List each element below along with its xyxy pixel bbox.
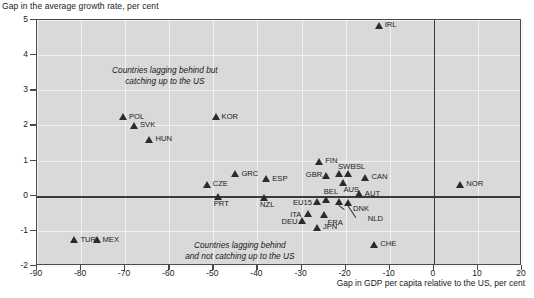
data-point-label: ISL	[354, 163, 365, 171]
triangle-marker-icon	[70, 236, 78, 243]
data-point-label: DEU	[282, 218, 298, 226]
y-tick-mark	[30, 54, 36, 55]
gridline-vertical	[390, 20, 391, 264]
gridline-vertical	[478, 20, 479, 264]
data-point-label: IRL	[385, 21, 397, 29]
x-tick-label: 10	[457, 268, 497, 278]
zero-horizontal-line	[37, 196, 520, 198]
triangle-marker-icon	[344, 170, 352, 177]
triangle-marker-icon	[322, 196, 330, 203]
triangle-marker-icon	[231, 170, 239, 177]
chart-plot-area: Countries lagging behind butcatching up …	[36, 19, 521, 265]
annotation-catching-up: Countries lagging behind butcatching up …	[85, 65, 245, 87]
x-tick-label: -80	[60, 268, 100, 278]
triangle-marker-icon	[212, 113, 220, 120]
data-point-label: GBR	[306, 171, 322, 179]
y-tick-label: 1	[2, 155, 28, 165]
gridline-horizontal	[37, 125, 520, 126]
x-tick-label: -60	[148, 268, 188, 278]
x-tick-label: -30	[281, 268, 321, 278]
y-tick-label: 4	[2, 49, 28, 59]
gridline-horizontal	[37, 20, 520, 21]
y-tick-mark	[30, 265, 36, 266]
triangle-marker-icon	[203, 181, 211, 188]
gridline-vertical	[257, 20, 258, 264]
x-tick-label: -10	[369, 268, 409, 278]
triangle-marker-icon	[456, 181, 464, 188]
gridline-horizontal	[37, 231, 520, 232]
data-point-label: NLD	[368, 215, 383, 223]
x-tick-label: -70	[104, 268, 144, 278]
y-tick-mark	[30, 160, 36, 161]
annotation-not-catching-up-line2: and not catching up to the US	[160, 251, 320, 262]
y-tick-label: -1	[2, 225, 28, 235]
y-tick-mark	[30, 89, 36, 90]
triangle-marker-icon	[119, 113, 127, 120]
data-point-label: BEL	[324, 188, 338, 196]
triangle-marker-icon	[313, 198, 321, 205]
triangle-marker-icon	[315, 158, 323, 165]
data-point-label: HUN	[155, 135, 171, 143]
annotation-not-catching-up: Countries lagging behindand not catching…	[160, 240, 320, 262]
gridline-vertical	[522, 20, 523, 264]
y-axis-title: Gap in the average growth rate, per cent	[2, 1, 159, 11]
data-point-label: CHE	[380, 240, 396, 248]
triangle-marker-icon	[322, 172, 330, 179]
data-point-label: NZL	[260, 201, 274, 209]
triangle-marker-icon	[335, 170, 343, 177]
annotation-catching-up-line2: catching up to the US	[85, 76, 245, 87]
x-tick-label: 0	[413, 268, 453, 278]
triangle-marker-icon	[130, 122, 138, 129]
gridline-horizontal	[37, 161, 520, 162]
triangle-marker-icon	[313, 224, 321, 231]
y-tick-label: 2	[2, 119, 28, 129]
triangle-marker-icon	[361, 174, 369, 181]
gridline-vertical	[37, 20, 38, 264]
x-tick-label: -50	[192, 268, 232, 278]
data-point-label: SVK	[140, 121, 155, 129]
x-axis-title: Gap in GDP per capita relative to the US…	[337, 278, 525, 288]
y-tick-mark	[30, 195, 36, 196]
annotation-catching-up-line1: Countries lagging behind but	[85, 65, 245, 76]
triangle-marker-icon	[375, 22, 383, 29]
x-tick-label: -40	[236, 268, 276, 278]
gridline-vertical	[125, 20, 126, 264]
gridline-vertical	[81, 20, 82, 264]
y-tick-label: 5	[2, 14, 28, 24]
data-point-label: CAN	[371, 173, 387, 181]
y-tick-mark	[30, 230, 36, 231]
triangle-marker-icon	[93, 236, 101, 243]
y-tick-label: -2	[2, 260, 28, 270]
data-point-label: GRC	[241, 170, 258, 178]
y-tick-label: 0	[2, 190, 28, 200]
gridline-horizontal	[37, 90, 520, 91]
data-point-label: MEX	[103, 236, 119, 244]
triangle-marker-icon	[262, 175, 270, 182]
data-point-label: PRT	[214, 200, 229, 208]
triangle-marker-icon	[304, 210, 312, 217]
annotation-not-catching-up-line1: Countries lagging behind	[160, 240, 320, 251]
data-point-label: JPN	[323, 223, 337, 231]
data-point-label: AUT	[365, 190, 380, 198]
data-point-label: NOR	[466, 180, 483, 188]
gridline-horizontal	[37, 266, 520, 267]
gridline-horizontal	[37, 55, 520, 56]
x-tick-label: 20	[501, 268, 534, 278]
data-point-label: EU15	[293, 199, 312, 207]
gridline-vertical	[346, 20, 347, 264]
triangle-marker-icon	[298, 217, 306, 224]
triangle-marker-icon	[370, 241, 378, 248]
zero-vertical-line	[434, 20, 436, 264]
data-point-label: ESP	[272, 175, 287, 183]
data-point-label: FIN	[325, 157, 337, 165]
data-point-label: KOR	[222, 113, 238, 121]
y-tick-mark	[30, 19, 36, 20]
gridline-vertical	[213, 20, 214, 264]
gridline-vertical	[302, 20, 303, 264]
y-tick-mark	[30, 124, 36, 125]
triangle-marker-icon	[320, 211, 328, 218]
triangle-marker-icon	[355, 190, 363, 197]
y-tick-label: 3	[2, 84, 28, 94]
data-point-label: POL	[129, 113, 144, 121]
data-point-label: DNK	[353, 205, 369, 213]
